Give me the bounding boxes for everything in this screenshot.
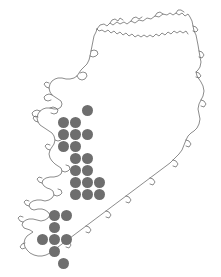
occurrence-dot — [82, 105, 93, 116]
occurrence-dot — [70, 165, 81, 176]
occurrence-dot — [82, 153, 93, 164]
occurrence-dot — [49, 210, 60, 221]
occurrence-dot — [61, 210, 72, 221]
occurrence-dot — [49, 246, 60, 257]
occurrence-dot — [70, 189, 81, 200]
occurrence-dot — [70, 141, 81, 152]
occurrence-dot — [61, 234, 72, 245]
occurrence-dot — [58, 117, 69, 128]
occurrence-dot — [70, 129, 81, 140]
occurrence-dot — [82, 177, 93, 188]
occurrence-dot — [70, 117, 81, 128]
occurrence-dot — [70, 177, 81, 188]
occurrence-dot — [58, 141, 69, 152]
occurrence-dot — [70, 153, 81, 164]
occurrence-dot — [49, 222, 60, 233]
occurrence-dot — [37, 234, 48, 245]
occurrence-dot — [94, 189, 105, 200]
occurrence-dot — [58, 129, 69, 140]
distribution-map-figure — [0, 0, 221, 277]
occurrence-dot — [82, 165, 93, 176]
occurrence-dot — [94, 177, 105, 188]
occurrence-dot — [82, 189, 93, 200]
occurrence-dots-layer — [0, 0, 221, 277]
occurrence-dot — [82, 129, 93, 140]
occurrence-dot — [49, 234, 60, 245]
occurrence-dot — [58, 258, 69, 269]
